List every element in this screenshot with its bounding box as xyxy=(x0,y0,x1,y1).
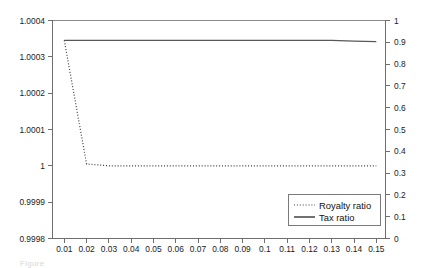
left-axis-tick-label: 1.0002 xyxy=(19,88,45,98)
bottom-axis-tick-labels: 0.01 0.02 0.03 0.04 0.05 0.06 0.07 0.08 … xyxy=(56,244,385,254)
right-axis-tick-label: 0.5 xyxy=(394,125,406,135)
chart-figure: 1.0004 1.0003 1.0002 1.0001 1 0.9999 0.9… xyxy=(0,0,425,268)
bottom-axis-tick-label: 0.02 xyxy=(78,244,95,254)
bottom-axis-tick-label: 0.11 xyxy=(279,244,295,254)
figure-caption-fragment: Figure xyxy=(20,259,150,268)
right-axis-tick-label: 0.6 xyxy=(394,103,406,113)
bottom-axis-tick-label: 0.13 xyxy=(324,244,341,254)
right-axis-tick-label: 0.2 xyxy=(394,190,406,200)
chart-legend: Royalty ratio Tax ratio xyxy=(289,195,381,226)
left-axis-tick-label: 1.0003 xyxy=(19,52,45,62)
legend-label: Royalty ratio xyxy=(319,200,371,211)
left-axis-tick-label: 0.9998 xyxy=(19,234,45,244)
right-axis-tick-label: 0.9 xyxy=(394,37,406,47)
bottom-axis-tick-label: 0.04 xyxy=(123,244,140,254)
right-axis-tick-label: 0.3 xyxy=(394,168,406,178)
right-axis-tick-label: 0.4 xyxy=(394,146,406,156)
bottom-axis-tick-label: 0.05 xyxy=(145,244,162,254)
legend-label: Tax ratio xyxy=(319,212,354,223)
right-axis-tick-label: 0.8 xyxy=(394,59,406,69)
right-axis-tick-label: 0.7 xyxy=(394,81,406,91)
right-axis-tick-label: 1 xyxy=(394,16,399,26)
bottom-axis-tick-label: 0.08 xyxy=(212,244,229,254)
bottom-axis-tick-label: 0.06 xyxy=(168,244,185,254)
bottom-axis-tick-label: 0.15 xyxy=(368,244,385,254)
left-axis-tick-label: 1 xyxy=(40,161,45,171)
right-axis-tick-labels: 1 0.9 0.8 0.7 0.6 0.5 0.4 0.3 0.2 0.1 0 xyxy=(394,16,406,244)
right-axis-tick-label: 0.1 xyxy=(394,212,406,222)
bottom-axis-tick-label: 0.14 xyxy=(346,244,363,254)
left-axis-tick-label: 0.9999 xyxy=(19,197,45,207)
left-axis-tick-labels: 1.0004 1.0003 1.0002 1.0001 1 0.9999 0.9… xyxy=(19,16,45,244)
bottom-axis-tick-label: 0.07 xyxy=(190,244,207,254)
left-axis-tick-label: 1.0001 xyxy=(19,125,45,135)
right-axis-tick-label: 0 xyxy=(394,234,399,244)
line-chart: 1.0004 1.0003 1.0002 1.0001 1 0.9999 0.9… xyxy=(0,0,425,268)
left-axis-ticks xyxy=(48,21,52,239)
left-axis-tick-label: 1.0004 xyxy=(19,16,45,26)
bottom-axis-tick-label: 0.01 xyxy=(56,244,73,254)
bottom-axis-tick-label: 0.12 xyxy=(301,244,318,254)
bottom-axis-tick-label: 0.03 xyxy=(101,244,118,254)
bottom-axis-tick-label: 0.09 xyxy=(234,244,251,254)
bottom-axis-tick-label: 0.1 xyxy=(259,244,271,254)
